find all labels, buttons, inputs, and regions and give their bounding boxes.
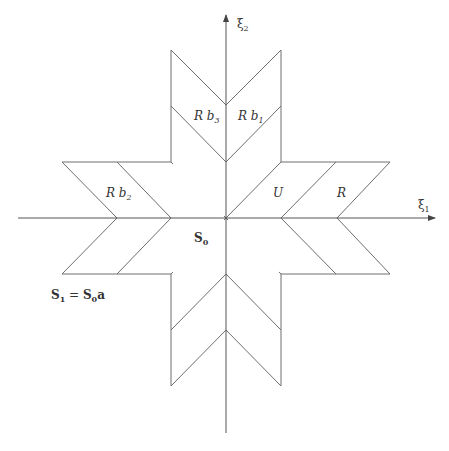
region-label-rb3: R b3	[193, 109, 220, 125]
xi1-axis-label: ξ1	[418, 198, 430, 214]
region-label-rb1: R b1	[237, 109, 264, 125]
star-domain-diagram: ξ2 ξ1 R b3 R b1 R b2 U R S0 S1 = S0a	[0, 0, 449, 451]
region-label-s0: S0	[194, 231, 209, 247]
xi2-axis-label: ξ2	[237, 17, 249, 33]
caption-s1-equals-s0a: S1 = S0a	[51, 288, 105, 304]
region-label-rb2: R b2	[105, 186, 132, 202]
diagram-canvas: ξ2 ξ1 R b3 R b1 R b2 U R S0 S1 = S0a	[0, 0, 449, 451]
region-label-r: R	[336, 186, 346, 200]
region-label-u: U	[273, 186, 284, 200]
